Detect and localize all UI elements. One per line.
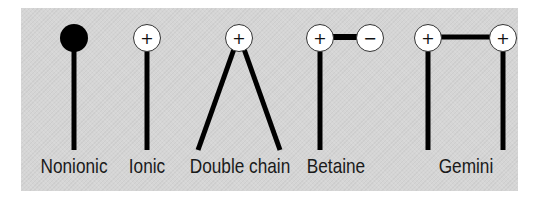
- plus-icon: +: [140, 29, 153, 48]
- tail-line-left: [198, 49, 234, 150]
- plus-icon: +: [232, 29, 245, 48]
- gemini-surfactant: + +: [415, 25, 517, 151]
- ionic-surfactant: +: [134, 25, 161, 151]
- betaine-surfactant: + −: [307, 25, 384, 151]
- plus-icon: +: [313, 29, 326, 48]
- tail-line-right: [244, 49, 280, 150]
- plus-icon: +: [421, 29, 434, 48]
- nonionic-headgroup-icon: [60, 24, 88, 52]
- nonionic-surfactant: [60, 24, 88, 150]
- plus-icon: +: [496, 29, 509, 48]
- label-betaine: Betaine: [279, 154, 394, 178]
- minus-icon: −: [363, 29, 376, 48]
- double-chain-surfactant: +: [198, 25, 280, 151]
- label-gemini: Gemini: [409, 154, 524, 178]
